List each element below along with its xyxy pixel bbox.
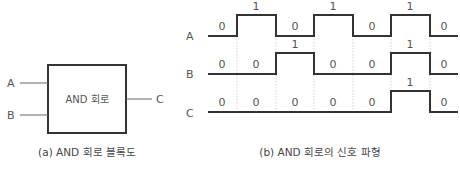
a-bit-0: 0 bbox=[219, 20, 226, 33]
signal-a-label: A bbox=[186, 30, 194, 43]
waveform-diagram: A 0 1 0 1 0 1 0 B 0 0 1 0 0 1 0 C 0 0 bbox=[186, 0, 458, 158]
c-bit-4: 0 bbox=[369, 96, 376, 109]
signal-b-label: B bbox=[186, 68, 194, 81]
and-circuit-figure: A B C AND 회로 (a) AND 회로 블록도 A 0 1 0 1 0 … bbox=[0, 0, 460, 170]
a-bit-5: 1 bbox=[407, 0, 414, 13]
output-c-label: C bbox=[156, 93, 164, 106]
a-bit-6: 0 bbox=[441, 20, 448, 33]
b-bit-6: 0 bbox=[441, 58, 448, 71]
signal-a-wave bbox=[208, 15, 458, 36]
a-bit-3: 1 bbox=[330, 0, 337, 13]
c-bit-2: 0 bbox=[292, 96, 299, 109]
signal-c-label: C bbox=[186, 107, 194, 120]
input-b-label: B bbox=[7, 109, 15, 122]
c-bit-5: 1 bbox=[407, 76, 414, 89]
block-diagram: A B C AND 회로 (a) AND 회로 블록도 bbox=[7, 65, 164, 158]
block-label: AND 회로 bbox=[65, 94, 108, 105]
b-bit-1: 0 bbox=[253, 58, 260, 71]
caption-a: (a) AND 회로 블록도 bbox=[38, 146, 136, 158]
b-bit-5: 1 bbox=[407, 38, 414, 51]
a-bit-2: 0 bbox=[292, 20, 299, 33]
a-bit-1: 1 bbox=[253, 0, 260, 13]
b-bit-2: 1 bbox=[292, 38, 299, 51]
b-bit-4: 0 bbox=[369, 58, 376, 71]
c-bit-0: 0 bbox=[219, 96, 226, 109]
input-a-label: A bbox=[7, 77, 15, 90]
caption-b: (b) AND 회로의 신호 파형 bbox=[259, 146, 380, 158]
b-bit-0: 0 bbox=[219, 58, 226, 71]
a-bit-4: 0 bbox=[369, 20, 376, 33]
c-bit-1: 0 bbox=[253, 96, 260, 109]
b-bit-3: 0 bbox=[330, 58, 337, 71]
c-bit-3: 0 bbox=[330, 96, 337, 109]
c-bit-6: 0 bbox=[441, 96, 448, 109]
